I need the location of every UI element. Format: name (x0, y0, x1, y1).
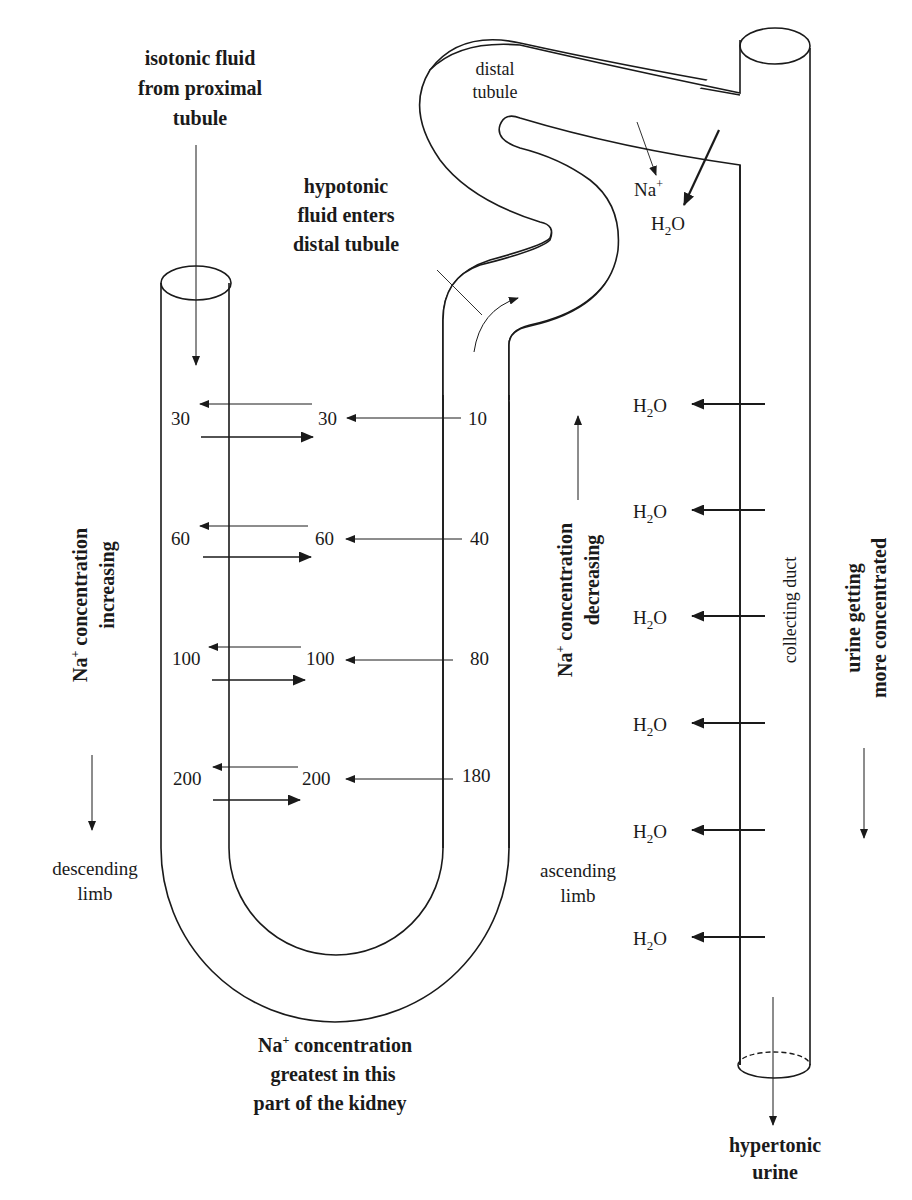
svg-text:distal: distal (476, 59, 515, 79)
collecting-duct-bottom-front (738, 1065, 810, 1078)
na-increasing-label: Na+ concentration increasing (68, 528, 119, 682)
svg-text:limb: limb (561, 885, 596, 906)
isotonic-label: isotonic fluid from proximal tubule (138, 47, 263, 129)
svg-text:tubule: tubule (173, 107, 228, 129)
svg-text:60: 60 (171, 528, 190, 549)
collecting-duct-top-opening (740, 28, 810, 64)
svg-text:10: 10 (468, 408, 487, 429)
svg-text:greatest in this: greatest in this (270, 1063, 395, 1086)
greatest-concentration-label: Na+ concentration greatest in this part … (254, 1033, 412, 1115)
svg-text:H2O: H2O (633, 928, 667, 953)
svg-text:urine getting: urine getting (842, 563, 865, 672)
ascending-limb-label: ascending limb (540, 860, 616, 906)
svg-text:decreasing: decreasing (581, 535, 604, 626)
svg-text:60: 60 (315, 528, 334, 549)
svg-text:100: 100 (306, 648, 335, 669)
svg-text:limb: limb (78, 883, 113, 904)
hypotonic-label: hypotonic fluid enters distal tubule (293, 175, 399, 255)
svg-text:200: 200 (173, 768, 202, 789)
svg-text:Na+ concentration: Na+ concentration (258, 1033, 412, 1056)
svg-text:increasing: increasing (96, 541, 119, 628)
svg-text:30: 30 (171, 408, 190, 429)
svg-text:Na+ concentration: Na+ concentration (553, 523, 576, 677)
svg-text:ascending: ascending (540, 860, 616, 881)
svg-text:isotonic fluid: isotonic fluid (145, 47, 256, 69)
svg-text:descending: descending (52, 858, 138, 879)
svg-text:fluid enters: fluid enters (297, 204, 394, 226)
svg-text:40: 40 (470, 528, 489, 549)
descending-limb-label: descending limb (52, 858, 138, 904)
loop-of-henle-diagram: isotonic fluid from proximal tubule hypo… (0, 0, 912, 1200)
svg-text:100: 100 (172, 648, 201, 669)
svg-text:30: 30 (318, 408, 337, 429)
level-arrows (200, 404, 462, 800)
svg-text:H2O: H2O (633, 821, 667, 846)
collecting-duct-label: collecting duct (780, 557, 800, 663)
hypertonic-urine-label: hypertonic urine (729, 1134, 821, 1183)
svg-text:part of the kidney: part of the kidney (254, 1092, 407, 1115)
svg-text:from proximal: from proximal (138, 77, 263, 100)
svg-text:hypertonic: hypertonic (729, 1134, 821, 1157)
svg-text:hypotonic: hypotonic (304, 175, 389, 198)
svg-text:urine: urine (752, 1161, 798, 1183)
svg-text:180: 180 (462, 765, 491, 786)
svg-text:tubule: tubule (473, 82, 518, 102)
svg-text:more concentrated: more concentrated (868, 538, 890, 698)
svg-text:200: 200 (302, 768, 331, 789)
svg-text:80: 80 (470, 648, 489, 669)
collecting-duct-bottom-back (738, 1052, 810, 1065)
svg-text:Na+ concentration: Na+ concentration (68, 528, 91, 682)
urine-concentrated-label: urine getting more concentrated (842, 538, 890, 698)
svg-text:distal tubule: distal tubule (293, 233, 399, 255)
